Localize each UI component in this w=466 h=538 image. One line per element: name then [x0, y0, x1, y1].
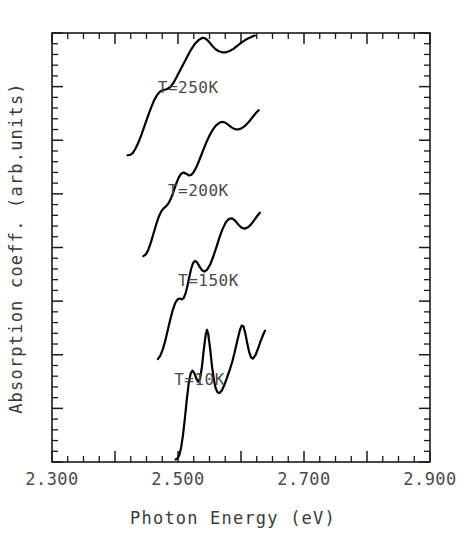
curve-label-t150k: T=150K	[178, 271, 239, 290]
curve-label-t250k: T=250K	[158, 78, 219, 97]
x-axis-title: Photon Energy (eV)	[130, 508, 336, 528]
curve-label-t10k: T=10K	[174, 370, 225, 389]
x-tick-label: 2.500	[151, 469, 205, 489]
figure-background	[0, 0, 466, 538]
x-tick-label: 2.900	[403, 469, 457, 489]
x-tick-label: 2.700	[277, 469, 331, 489]
x-tick-label: 2.300	[25, 469, 79, 489]
y-axis-title: Absorption coeff. (arb.units)	[6, 82, 26, 414]
curve-label-t200k: T=200K	[168, 181, 229, 200]
absorption-spectra-figure: T=250KT=200KT=150KT=10K 2.3002.5002.7002…	[0, 0, 466, 538]
